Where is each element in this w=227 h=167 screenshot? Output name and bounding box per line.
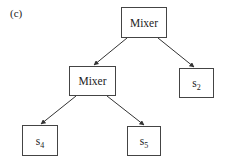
node-s2: s2 bbox=[179, 68, 214, 98]
node-s5: s5 bbox=[127, 126, 161, 156]
node-label: s2 bbox=[192, 77, 200, 89]
node-label: s5 bbox=[140, 135, 148, 147]
edge-root-s2 bbox=[158, 38, 194, 67]
edge-mixer2-s4 bbox=[41, 96, 76, 124]
edge-mixer2-s5 bbox=[107, 96, 144, 125]
node-label: Mixer bbox=[78, 75, 106, 87]
node-mixer: Mixer bbox=[69, 66, 116, 96]
node-root-mixer: Mixer bbox=[121, 7, 167, 38]
edge-root-mixer2 bbox=[94, 38, 127, 65]
node-label: s4 bbox=[36, 135, 44, 147]
node-s4: s4 bbox=[22, 125, 58, 156]
node-label: Mixer bbox=[130, 17, 158, 29]
